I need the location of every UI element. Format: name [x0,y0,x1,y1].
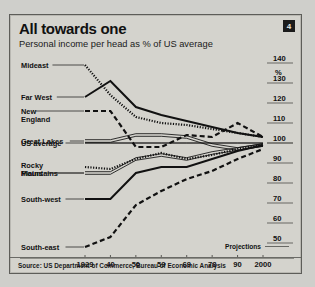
y-tick-label: 60 [273,214,281,223]
series-label: England [21,115,51,124]
tick-labels-layer: 5060708090100110120130140%19294050596978… [77,54,286,270]
y-tick-label: 70 [273,194,281,203]
series-south-west [85,145,263,199]
chart-card: All towards one Personal income per head… [9,14,302,274]
x-tick-label: 90 [233,260,241,269]
series-label: Far West [21,93,53,102]
y-tick-label: 100 [273,134,286,143]
y-tick-label: 140 [273,54,286,63]
series-label: South-west [21,195,61,204]
series-line [85,81,263,137]
y-tick-label: 80 [273,174,281,183]
footer-divider [10,257,301,258]
series-layer [85,65,263,247]
series-line [85,145,263,199]
series-rocky-mountains [85,145,263,169]
series-label: US average [21,139,61,148]
axes-layer [20,63,294,258]
y-tick-label: 90 [273,154,281,163]
chart-plot-area: MideastFar WestNewEnglandGreat LakesUS a… [10,15,301,273]
series-label: Mideast [21,61,49,70]
series-line [85,145,263,169]
series-mideast [85,65,263,137]
line-chart-svg: MideastFar WestNewEnglandGreat LakesUS a… [10,15,301,273]
y-tick-label: 120 [273,94,286,103]
series-far-west [85,81,263,137]
source-note: Source: US Department of Commerce, Burea… [18,262,226,269]
series-line [85,65,263,137]
series-labels-layer: MideastFar WestNewEnglandGreat LakesUS a… [21,61,84,252]
projections-annotation: Projections [225,243,261,251]
y-tick-label: 50 [273,234,281,243]
series-line [85,134,263,148]
series-label: South-east [21,243,60,252]
series-label: Plains [21,169,43,178]
x-tick-label: 2000 [255,260,272,269]
percent-symbol: % [275,68,282,77]
y-tick-label: 110 [273,114,285,123]
